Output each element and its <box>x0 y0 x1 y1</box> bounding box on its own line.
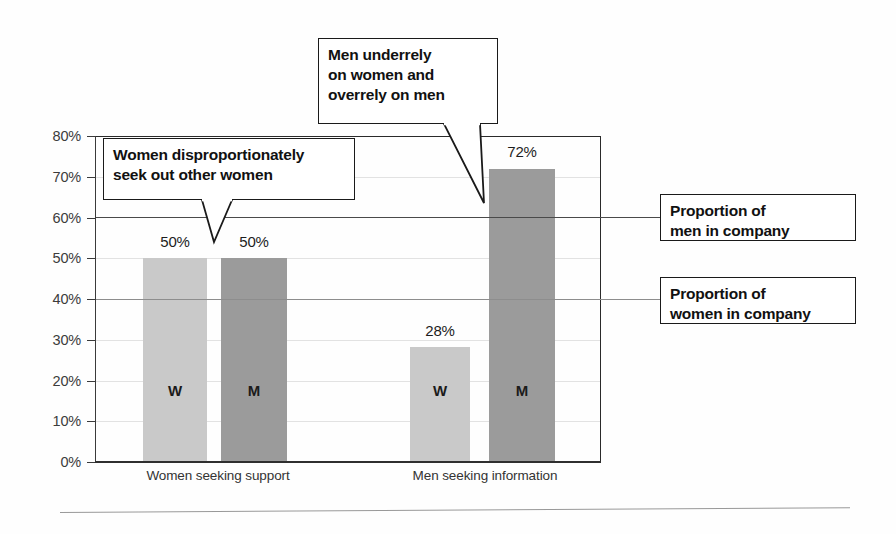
callout-line-2: women in company <box>670 304 846 324</box>
callout-line-1: Men underrely <box>328 45 488 65</box>
callout-tail-women-seek <box>196 199 246 243</box>
callout-proportion-of-men: Proportion of men in company <box>660 194 856 241</box>
callout-tail-men-underrely <box>430 123 500 205</box>
callout-line-1: Proportion of <box>670 284 846 304</box>
y-axis-label-50: 50% <box>33 250 81 266</box>
y-tick-70 <box>87 177 95 178</box>
y-tick-60 <box>87 218 95 219</box>
reference-line-men-in-company <box>95 217 661 218</box>
y-tick-40 <box>87 299 95 300</box>
y-tick-10 <box>87 421 95 422</box>
y-axis-label-40: 40% <box>33 291 81 307</box>
callout-line-1: Women disproportionately <box>113 145 345 165</box>
callout-line-2: seek out other women <box>113 165 345 185</box>
y-axis-label-60: 60% <box>33 210 81 226</box>
callout-proportion-of-women: Proportion of women in company <box>660 277 856 324</box>
callout-men-underrely: Men underrely on women and overrely on m… <box>318 38 498 124</box>
y-axis-label-30: 30% <box>33 332 81 348</box>
y-axis-label-20: 20% <box>33 373 81 389</box>
callout-line-3: overrely on men <box>328 85 488 105</box>
y-tick-80 <box>87 136 95 137</box>
y-axis-label-0: 0% <box>33 454 81 470</box>
callout-line-2: men in company <box>670 221 846 241</box>
x-axis-line <box>95 461 601 463</box>
callout-women-seek-other-women: Women disproportionately seek out other … <box>103 138 355 200</box>
x-axis-label-men-seeking-information: Men seeking information <box>385 468 585 483</box>
y-axis-label-10: 10% <box>33 413 81 429</box>
x-axis-label-women-seeking-support: Women seeking support <box>118 468 318 483</box>
callout-line-2: on women and <box>328 65 488 85</box>
reference-line-women-in-company <box>95 299 661 300</box>
chart-page: W 50% M 50% W 28% M 72% 80% 70% 60% 50% … <box>0 0 896 534</box>
y-axis-label-70: 70% <box>33 169 81 185</box>
y-tick-20 <box>87 381 95 382</box>
y-axis-label-80: 80% <box>33 128 81 144</box>
y-axis-line <box>95 136 96 462</box>
callout-line-1: Proportion of <box>670 201 846 221</box>
footer-divider <box>60 507 850 513</box>
y-tick-0 <box>87 462 95 463</box>
y-tick-30 <box>87 340 95 341</box>
y-tick-50 <box>87 258 95 259</box>
